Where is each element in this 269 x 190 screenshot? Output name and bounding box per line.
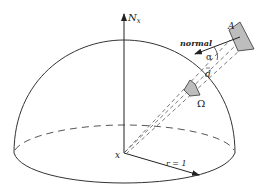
label-alpha: α	[206, 52, 212, 62]
equator-solid-front	[14, 153, 235, 183]
label-distance: d	[205, 69, 211, 79]
label-omega: Ω	[197, 98, 205, 109]
label-normal: normal	[180, 38, 212, 48]
label-radius: r = 1	[166, 159, 187, 168]
angle-arc	[214, 47, 218, 60]
label-origin: x	[115, 150, 120, 160]
radius-arrow	[124, 153, 199, 175]
label-patch-A: A	[227, 21, 235, 31]
label-normal-axis: Nx	[127, 12, 141, 25]
diagram-canvas: Nx A normal α d Ω x r = 1	[0, 0, 269, 190]
